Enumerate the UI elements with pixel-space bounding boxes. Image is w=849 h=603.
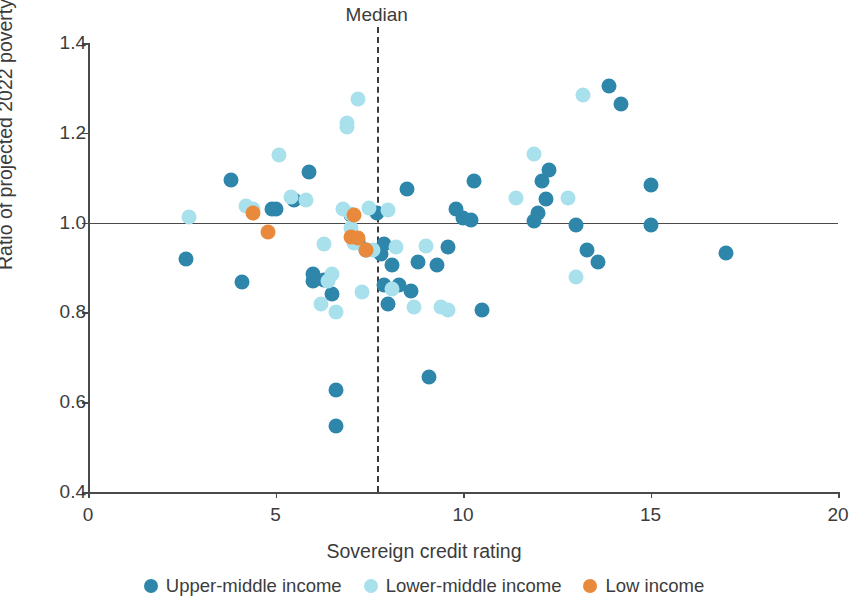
data-point	[527, 147, 542, 162]
data-point	[542, 162, 557, 177]
x-tick-label: 20	[827, 504, 848, 526]
y-tick-label: 1.0	[26, 212, 86, 234]
legend-label: Lower-middle income	[386, 575, 562, 597]
data-point	[354, 285, 369, 300]
data-point	[358, 243, 373, 258]
median-label: Median	[346, 4, 408, 26]
x-tick	[838, 492, 840, 498]
data-point	[643, 217, 658, 232]
data-point	[302, 165, 317, 180]
y-tick-label: 0.4	[26, 481, 86, 503]
data-point	[283, 190, 298, 205]
data-point	[602, 78, 617, 93]
data-point	[508, 190, 523, 205]
data-point	[429, 258, 444, 273]
data-point	[568, 217, 583, 232]
y-axis-line	[88, 43, 90, 492]
data-point	[298, 193, 313, 208]
legend-label: Low income	[605, 575, 704, 597]
data-point	[568, 270, 583, 285]
data-point	[328, 305, 343, 320]
data-point	[411, 255, 426, 270]
data-point	[246, 205, 261, 220]
data-point	[613, 96, 628, 111]
legend-item-2[interactable]: Lower-middle income	[364, 575, 562, 597]
data-point	[441, 240, 456, 255]
data-point	[223, 172, 238, 187]
data-point	[313, 297, 328, 312]
data-point	[576, 87, 591, 102]
data-point	[467, 173, 482, 188]
data-point	[643, 178, 658, 193]
data-point	[328, 418, 343, 433]
x-tick-label: 0	[83, 504, 94, 526]
data-point	[264, 202, 279, 217]
data-point	[351, 92, 366, 107]
data-point	[538, 191, 553, 206]
data-point	[272, 148, 287, 163]
data-point	[399, 181, 414, 196]
data-point	[328, 383, 343, 398]
data-point	[403, 283, 418, 298]
data-point	[182, 210, 197, 225]
legend-label: Upper-middle income	[166, 575, 342, 597]
data-point	[362, 201, 377, 216]
data-point	[531, 205, 546, 220]
x-tick	[463, 492, 465, 498]
data-point	[381, 203, 396, 218]
legend-swatch-icon	[144, 579, 158, 593]
data-point	[441, 303, 456, 318]
x-tick	[88, 492, 90, 498]
legend-item-1[interactable]: Upper-middle income	[144, 575, 342, 597]
data-point	[407, 300, 422, 315]
data-point	[234, 274, 249, 289]
x-tick-label: 15	[640, 504, 661, 526]
y-tick-label: 0.6	[26, 391, 86, 413]
data-point	[561, 190, 576, 205]
x-tick	[651, 492, 653, 498]
y-tick-label: 0.8	[26, 301, 86, 323]
data-point	[474, 303, 489, 318]
data-point	[324, 267, 339, 282]
data-point	[339, 120, 354, 135]
legend-swatch-icon	[364, 579, 378, 593]
data-point	[388, 240, 403, 255]
x-tick	[276, 492, 278, 498]
data-point	[463, 213, 478, 228]
data-point	[422, 369, 437, 384]
data-point	[384, 282, 399, 297]
y-tick-label: 1.2	[26, 122, 86, 144]
data-point	[178, 251, 193, 266]
legend: Upper-middle incomeLower-middle incomeLo…	[0, 575, 848, 597]
data-point	[347, 207, 362, 222]
data-point	[418, 238, 433, 253]
y-axis-title: Ratio of projected 2022 poverty rate to …	[0, 0, 17, 270]
legend-swatch-icon	[583, 579, 597, 593]
data-point	[381, 297, 396, 312]
data-point	[718, 246, 733, 261]
data-point	[261, 224, 276, 239]
data-point	[591, 255, 606, 270]
data-point	[384, 258, 399, 273]
y-tick-label: 1.4	[26, 32, 86, 54]
x-tick-label: 10	[452, 504, 473, 526]
plot-area: 0.40.60.81.01.21.4 05101520	[88, 43, 838, 492]
legend-item-3[interactable]: Low income	[583, 575, 704, 597]
x-axis-title: Sovereign credit rating	[0, 540, 848, 563]
x-tick-label: 5	[270, 504, 281, 526]
data-point	[317, 237, 332, 252]
